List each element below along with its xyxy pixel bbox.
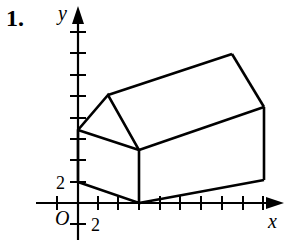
y-axis-arrow-icon	[72, 6, 84, 24]
y-tick-label: 2	[56, 173, 65, 193]
front-face	[78, 95, 139, 203]
x-tick-label: 2	[91, 215, 100, 235]
origin-label: O	[55, 207, 69, 229]
x-axis-arrow-icon	[266, 197, 284, 209]
x-axis-label: x	[267, 210, 277, 232]
house-prism	[78, 54, 264, 203]
y-axis-label: y	[56, 2, 67, 25]
problem-number: 1.	[6, 5, 24, 31]
diagram-canvas: 1. y x O 2 2	[0, 0, 288, 245]
roof-ridge	[108, 54, 232, 95]
